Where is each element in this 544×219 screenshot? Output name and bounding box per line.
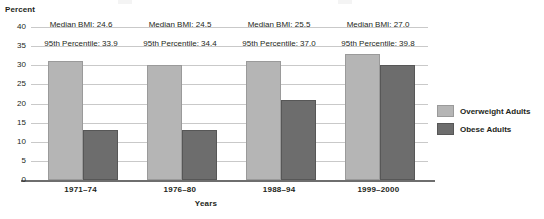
y-tick-label: 30: [0, 61, 26, 69]
bar-obese-adults-1988-94: [281, 100, 316, 180]
y-axis-title: Percent: [5, 5, 35, 14]
chart-legend: Overweight Adults Obese Adults: [437, 104, 541, 140]
x-axis-title: Years: [0, 199, 544, 208]
y-tick-label: 5: [0, 157, 26, 165]
x-axis-line: [21, 180, 435, 182]
x-tick-label: 1988–94: [230, 185, 329, 194]
x-tick-label: 1971–74: [31, 185, 130, 194]
legend-swatch-icon: [437, 123, 454, 135]
y-tick-label: 35: [0, 42, 26, 50]
top-edge-artifact: [118, 0, 132, 4]
y-tick-label: 10: [0, 138, 26, 146]
x-tick-label: 1999–2000: [329, 185, 428, 194]
legend-item-overweight-adults: Overweight Adults: [437, 104, 541, 118]
legend-swatch-icon: [437, 105, 454, 117]
legend-label: Overweight Adults: [460, 107, 530, 116]
y-tick-label: 15: [0, 119, 26, 127]
bar-overweight-adults-1971-74: [48, 61, 83, 180]
x-tick-label: 1976–80: [130, 185, 229, 194]
plot-area: [31, 27, 428, 180]
y-tick-label: 40: [0, 23, 26, 31]
y-tick-label: 0: [0, 176, 26, 184]
bar-overweight-adults-1988-94: [246, 61, 281, 180]
gridline: [31, 27, 428, 28]
y-tick-label: 25: [0, 80, 26, 88]
bar-overweight-adults-1999-2000: [345, 54, 380, 180]
bar-obese-adults-1971-74: [83, 130, 118, 180]
y-tick-label: 20: [0, 100, 26, 108]
gridline: [31, 46, 428, 47]
top-edge-artifact: [338, 0, 352, 4]
x-axis-title-text: Years: [195, 199, 217, 208]
bar-overweight-adults-1976-80: [147, 65, 182, 180]
bar-obese-adults-1976-80: [182, 130, 217, 180]
bmi-trend-bar-chart: Percent Median BMI: 24.6 95th Percentile…: [0, 0, 544, 219]
bar-obese-adults-1999-2000: [380, 65, 415, 180]
legend-item-obese-adults: Obese Adults: [437, 122, 541, 136]
legend-label: Obese Adults: [460, 125, 511, 134]
